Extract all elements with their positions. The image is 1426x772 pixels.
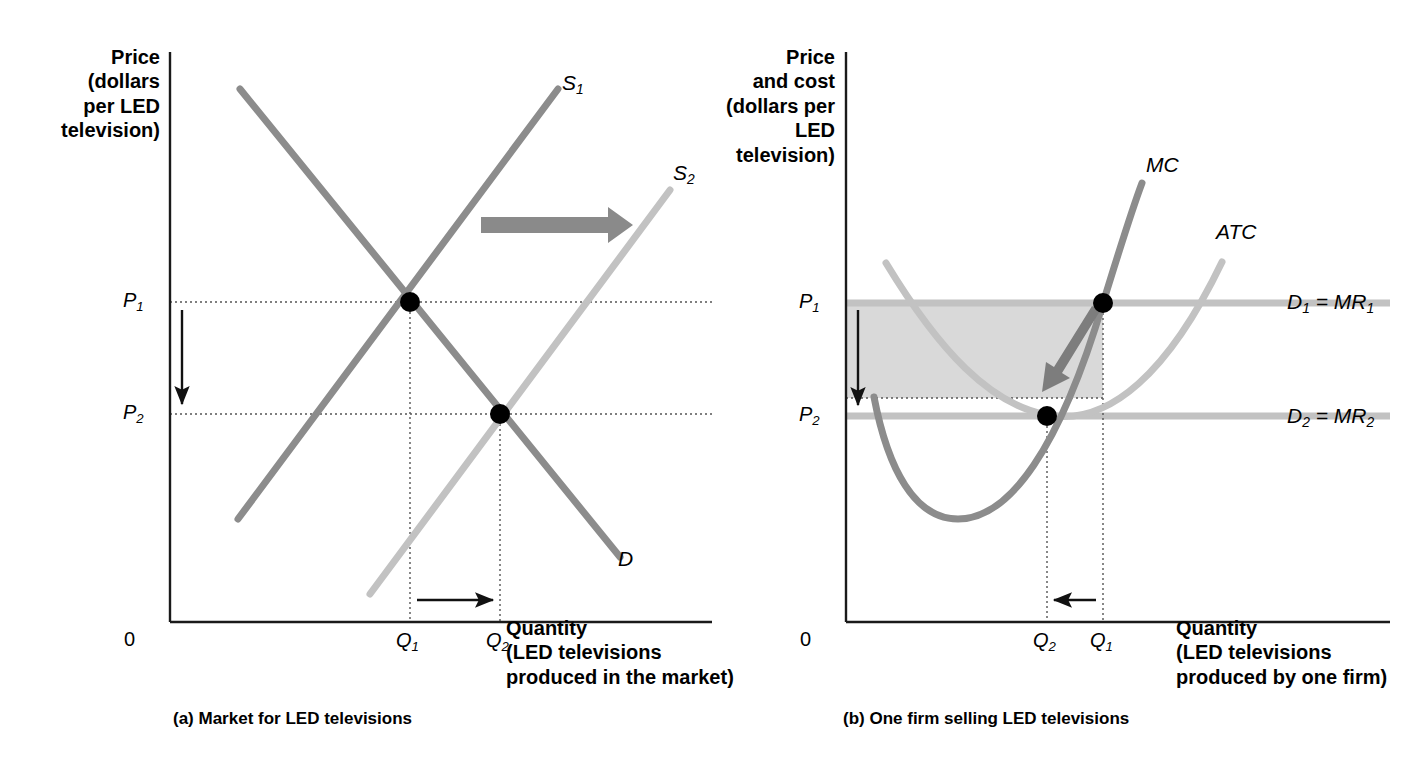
panel-b-price-2-symbol: P [799, 403, 812, 425]
panel-a-price-2-symbol: P [123, 401, 136, 423]
panel-a-price-1-symbol: P [123, 289, 136, 311]
panel-a-caption: (a) Market for LED televisions [173, 709, 412, 730]
mr2-symbol: MR [1334, 404, 1367, 427]
panel-b-quantity-2-sub: 2 [1049, 639, 1056, 654]
demand-curve-a [240, 89, 620, 557]
panel-a-price-2-label: P2 [123, 400, 144, 424]
panel-a-guide-lines [170, 302, 712, 622]
panel-b-price-1-label: P1 [799, 289, 820, 313]
equilibrium-dot-1-a [400, 292, 420, 312]
panel-a-price-1-sub: 1 [136, 299, 143, 314]
economics-figure: Price(dollarsper LEDtelevision) 0 P1 P2 … [0, 0, 1426, 772]
demand-mr-1-label: D1 = MR1 [1287, 289, 1374, 315]
panel-b-plot [846, 52, 1390, 622]
panel-b-quantity-2-symbol: Q [1033, 629, 1049, 651]
panel-a-price-1-label: P1 [123, 288, 144, 312]
demand-mr-2-label: D2 = MR2 [1287, 403, 1374, 429]
supply-curve-s2 [370, 190, 670, 594]
panel-a-x-axis-title: Quantity(LED televisionsproduced in the … [506, 616, 736, 689]
panel-a-origin-label: 0 [124, 627, 135, 651]
d2-sub: 2 [1302, 414, 1310, 430]
equilibrium-dot-2-a [490, 404, 510, 424]
panel-a-y-axis-title: Price(dollarsper LEDtelevision) [40, 45, 160, 143]
demand-curve-label: D [618, 546, 633, 572]
panel-a-quantity-1-label: Q1 [396, 628, 419, 652]
panel-a-plot [170, 52, 712, 622]
s1-sub: 1 [576, 81, 584, 97]
supply-curve-s1 [238, 89, 558, 519]
supply-curve-2-label: S2 [673, 160, 695, 186]
d2-equals: = [1310, 404, 1334, 427]
panel-b-price-1-symbol: P [799, 290, 812, 312]
mr1-sub: 1 [1367, 300, 1375, 316]
panel-b-caption: (b) One firm selling LED televisions [843, 709, 1129, 730]
panel-a-quantity-2-symbol: Q [486, 629, 502, 651]
panel-a-quantity-1-sub: 1 [412, 639, 419, 654]
panel-a-quantity-1-symbol: Q [396, 629, 412, 651]
panel-b-quantity-1-label: Q1 [1090, 628, 1113, 652]
d2-symbol: D [1287, 404, 1302, 427]
panel-b-price-2-sub: 2 [812, 413, 819, 428]
panel-a-price-2-sub: 2 [136, 411, 143, 426]
supply-shift-arrow [481, 207, 633, 243]
average-total-cost-label: ATC [1216, 219, 1256, 245]
supply-curve-1-label: S1 [562, 70, 584, 96]
panel-b-origin-label: 0 [800, 627, 811, 651]
equilibrium-dot-1-b [1093, 293, 1113, 313]
d1-equals: = [1310, 290, 1334, 313]
d1-sub: 1 [1302, 300, 1310, 316]
panel-b-y-axis-title: Priceand cost(dollars perLEDtelevision) [712, 45, 835, 167]
panel-b-price-1-sub: 1 [812, 300, 819, 315]
s2-symbol: S [673, 161, 687, 184]
panel-b-quantity-1-symbol: Q [1090, 629, 1106, 651]
panel-b-quantity-1-sub: 1 [1106, 639, 1113, 654]
panel-b-x-axis-title: Quantity(LED televisionsproduced by one … [1176, 616, 1419, 689]
d1-symbol: D [1287, 290, 1302, 313]
equilibrium-dot-2-b [1037, 406, 1057, 426]
marginal-cost-label: MC [1146, 152, 1179, 178]
panel-b-price-2-label: P2 [799, 402, 820, 426]
s2-sub: 2 [687, 171, 695, 187]
mr1-symbol: MR [1334, 290, 1367, 313]
s1-symbol: S [562, 71, 576, 94]
panel-b-quantity-2-label: Q2 [1033, 628, 1056, 652]
mr2-sub: 2 [1367, 414, 1375, 430]
